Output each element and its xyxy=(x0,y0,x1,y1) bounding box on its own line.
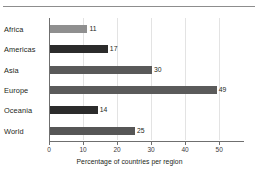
bar-americas xyxy=(50,45,108,53)
category-label-europe: Europe xyxy=(4,85,28,94)
category-label-oceania: Oceania xyxy=(4,106,32,115)
x-axis-line xyxy=(49,141,244,142)
bar-europe xyxy=(50,86,217,94)
bar-row: Europe49 xyxy=(0,80,259,100)
bar-oceania xyxy=(50,106,98,114)
category-label-asia: Asia xyxy=(4,65,19,74)
bar-africa xyxy=(50,25,87,33)
bar-value-world: 25 xyxy=(137,127,145,135)
x-tick-10 xyxy=(83,142,84,145)
bar-row: Oceania14 xyxy=(0,100,259,120)
bar-value-africa: 11 xyxy=(89,25,96,33)
bar-value-americas: 17 xyxy=(110,45,118,53)
x-tick-label-0: 0 xyxy=(47,146,51,154)
bar-row: Americas17 xyxy=(0,39,259,59)
category-label-americas: Americas xyxy=(4,45,35,54)
bar-row: World25 xyxy=(0,121,259,141)
category-label-africa: Africa xyxy=(4,25,23,34)
bar-asia xyxy=(50,66,152,74)
bar-row: Asia30 xyxy=(0,60,259,80)
x-tick-label-10: 10 xyxy=(79,146,86,154)
x-tick-label-40: 40 xyxy=(182,146,189,154)
bar-row: Africa11 xyxy=(0,19,259,39)
x-tick-30 xyxy=(151,142,152,145)
x-tick-0 xyxy=(49,142,50,145)
x-tick-label-50: 50 xyxy=(216,146,223,154)
x-tick-label-30: 30 xyxy=(147,146,154,154)
x-tick-label-20: 20 xyxy=(113,146,120,154)
top-divider xyxy=(3,6,255,7)
bar-world xyxy=(50,127,135,135)
bar-value-europe: 49 xyxy=(219,86,227,94)
category-label-world: World xyxy=(4,126,24,135)
chart-page: 01020304050 Africa11Americas17Asia30Euro… xyxy=(0,0,259,178)
bar-chart: 01020304050 Africa11Americas17Asia30Euro… xyxy=(0,14,259,178)
bar-value-asia: 30 xyxy=(154,66,162,74)
bar-value-oceania: 14 xyxy=(100,106,108,114)
x-tick-40 xyxy=(185,142,186,145)
x-axis-label: Percentage of countries per region xyxy=(0,157,259,166)
x-tick-20 xyxy=(117,142,118,145)
x-tick-50 xyxy=(219,142,220,145)
